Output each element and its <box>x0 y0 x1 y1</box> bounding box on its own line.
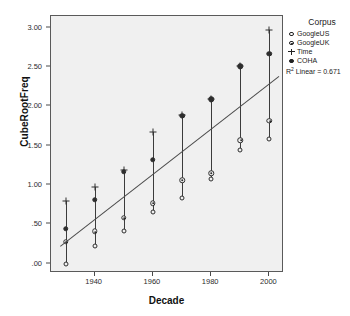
y-tick-mark <box>46 183 50 184</box>
data-point-googleuk <box>179 178 185 184</box>
data-point-googleus <box>209 177 214 182</box>
chart-root: CubeRootFreq .00.501.001.502.002.503.00 … <box>0 0 350 316</box>
r2-value-text: Linear = 0.671 <box>294 68 341 75</box>
data-point-googleus <box>121 228 126 233</box>
data-point-time <box>62 198 69 205</box>
legend-items: GoogleUSGoogleUKTimeCOHA <box>288 30 350 66</box>
y-tick-label: .00 <box>12 258 42 267</box>
y-tick-mark <box>46 223 50 224</box>
data-point-googleuk <box>150 200 156 206</box>
data-connector-line <box>66 201 67 263</box>
data-point-googleus <box>150 210 155 215</box>
y-tick-label: 1.00 <box>12 179 42 188</box>
y-tick-mark <box>46 144 50 145</box>
data-point-coha <box>63 226 69 232</box>
data-point-googleus <box>267 136 272 141</box>
y-tick-mark <box>46 26 50 27</box>
x-tick-label: 1940 <box>74 277 114 286</box>
open-circle-icon <box>288 30 297 38</box>
data-connector-line <box>95 187 96 247</box>
plot-canvas <box>51 16 282 271</box>
data-point-googleus <box>63 261 68 266</box>
data-point-googleus <box>92 244 97 249</box>
linear-fit-line <box>60 77 279 248</box>
y-tick-label: 2.00 <box>12 101 42 110</box>
data-point-coha <box>92 197 98 203</box>
x-tick-mark <box>210 272 211 276</box>
filled-circle-icon <box>288 57 297 65</box>
data-point-googleus <box>180 195 185 200</box>
y-tick-mark <box>46 66 50 67</box>
x-tick-label: 1960 <box>132 277 172 286</box>
x-tick-mark <box>94 272 95 276</box>
legend-item-label: COHA <box>297 57 317 65</box>
data-point-googleuk <box>92 229 98 235</box>
legend-item-googleuk[interactable]: GoogleUK <box>288 39 350 48</box>
dotted-circle-icon <box>288 39 297 47</box>
data-point-coha <box>238 64 244 70</box>
cropped-header-text <box>52 0 202 8</box>
legend-title: Corpus <box>294 17 350 27</box>
data-point-time <box>149 128 156 135</box>
plot-area <box>50 15 283 272</box>
data-connector-line <box>124 170 125 231</box>
data-point-googleus <box>238 148 243 153</box>
data-point-googleuk <box>121 215 127 221</box>
x-tick-label: 2000 <box>248 277 288 286</box>
data-point-coha <box>121 169 127 175</box>
data-point-googleuk <box>267 118 273 124</box>
legend-item-label: Time <box>297 48 312 56</box>
legend-item-googleus[interactable]: GoogleUS <box>288 30 350 39</box>
y-tick-mark <box>46 105 50 106</box>
x-tick-mark <box>152 272 153 276</box>
data-point-time <box>266 27 273 34</box>
data-point-googleuk <box>238 137 244 143</box>
x-tick-mark <box>268 272 269 276</box>
data-connector-line <box>182 115 183 198</box>
legend-item-label: GoogleUS <box>297 30 329 38</box>
y-tick-label: 1.50 <box>12 140 42 149</box>
data-point-coha <box>179 113 185 119</box>
data-point-coha <box>208 97 214 103</box>
y-tick-mark <box>46 262 50 263</box>
data-point-googleuk <box>208 170 214 176</box>
legend-item-time[interactable]: Time <box>288 48 350 57</box>
x-axis-label: Decade <box>50 295 283 306</box>
data-point-coha <box>150 157 156 163</box>
legend-item-coha[interactable]: COHA <box>288 57 350 66</box>
x-tick-label: 1980 <box>190 277 230 286</box>
data-connector-line <box>211 99 212 179</box>
plus-icon <box>288 48 297 56</box>
legend: Corpus GoogleUSGoogleUKTimeCOHA <box>288 17 350 66</box>
r-squared-annotation: R2 Linear = 0.671 <box>286 66 341 75</box>
y-tick-label: 3.00 <box>12 22 42 31</box>
y-tick-label: .50 <box>12 219 42 228</box>
legend-item-label: GoogleUK <box>297 39 329 47</box>
y-tick-label: 2.50 <box>12 62 42 71</box>
data-point-coha <box>267 51 273 57</box>
data-point-time <box>91 183 98 190</box>
